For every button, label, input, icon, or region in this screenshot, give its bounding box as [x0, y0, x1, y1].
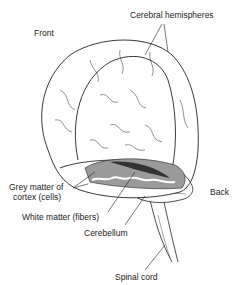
label-back: Back — [210, 188, 229, 198]
label-white-matter: White matter (fibers) — [22, 213, 99, 223]
label-cerebral-hemispheres: Cerebral hemispheres — [130, 11, 214, 21]
brainstem — [150, 198, 178, 262]
label-cerebellum: Cerebellum — [84, 229, 127, 239]
label-grey-matter-2: cortex (cells) — [13, 193, 61, 203]
label-front: Front — [34, 29, 54, 39]
brain-illustration — [0, 0, 235, 285]
label-spinal-cord: Spinal cord — [115, 273, 158, 283]
